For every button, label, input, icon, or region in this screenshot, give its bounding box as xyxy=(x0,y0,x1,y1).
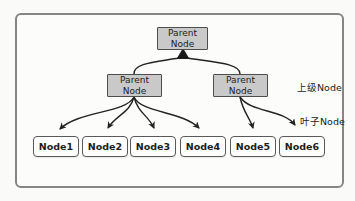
leaf-node-5: Node5 xyxy=(230,136,276,157)
leaf-node-2: Node2 xyxy=(82,136,128,157)
tree-diagram: Parent Node Parent Node Parent Node Node… xyxy=(0,0,355,201)
mid-parent-node-left: Parent Node xyxy=(107,74,162,97)
annotation-leaf-level: 叶子Node xyxy=(300,114,345,128)
root-parent-node: Parent Node xyxy=(157,27,208,50)
leaf-node-3: Node3 xyxy=(130,136,176,157)
leaf-node-4: Node4 xyxy=(180,136,226,157)
leaf-node-6: Node6 xyxy=(279,136,325,157)
annotation-upper-level: 上级Node xyxy=(297,80,342,94)
leaf-node-1: Node1 xyxy=(33,136,79,157)
mid-parent-node-right: Parent Node xyxy=(213,74,268,97)
